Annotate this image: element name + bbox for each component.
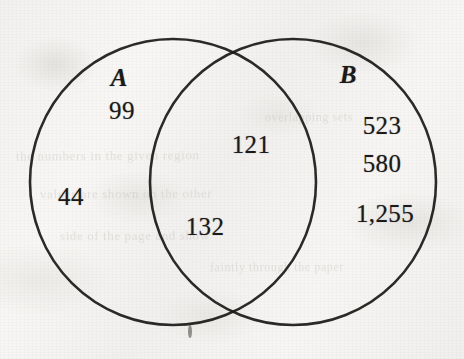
set-b-label: B xyxy=(340,61,357,89)
b-only-first-value: 523 xyxy=(363,112,402,140)
intersection-top-value: 121 xyxy=(232,131,271,159)
set-a-label: A xyxy=(111,64,128,92)
venn-circles-svg xyxy=(0,0,464,359)
set-b-circle xyxy=(150,39,436,325)
set-a-circle xyxy=(30,39,316,325)
b-only-second-value: 580 xyxy=(363,150,402,178)
a-only-top-value: 99 xyxy=(109,97,135,125)
venn-diagram-figure: the numbers in the given region values a… xyxy=(0,0,464,359)
intersection-bottom-value: 132 xyxy=(186,213,225,241)
a-only-bottom-value: 44 xyxy=(58,183,84,211)
b-only-third-value: 1,255 xyxy=(356,200,414,228)
